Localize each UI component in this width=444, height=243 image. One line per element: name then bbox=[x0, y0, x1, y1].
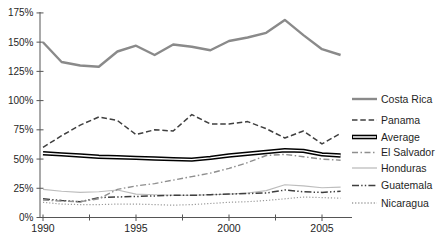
x-tick-label: 2000 bbox=[217, 222, 241, 234]
legend-label-el-salvador: El Salvador bbox=[381, 146, 435, 158]
series-line-nicaragua bbox=[43, 197, 341, 205]
y-tick-label: 75% bbox=[13, 124, 33, 135]
y-tick-label: 175% bbox=[8, 7, 34, 18]
legend-label-honduras: Honduras bbox=[381, 162, 427, 174]
legend-label-panama: Panama bbox=[381, 114, 420, 126]
legend-label-nicaragua: Nicaragua bbox=[381, 197, 429, 209]
y-tick-label: 50% bbox=[13, 154, 33, 165]
y-tick-label: 150% bbox=[8, 37, 34, 48]
y-tick-label: 25% bbox=[13, 183, 33, 194]
line-chart-figure: 0%25%50%75%100%125%150%175%1990199520002… bbox=[0, 0, 444, 243]
y-tick-label: 100% bbox=[8, 95, 34, 106]
y-tick-label: 125% bbox=[8, 66, 34, 77]
series-line-costa-rica bbox=[43, 20, 341, 67]
series-line-honduras bbox=[43, 185, 341, 196]
x-tick-label: 2005 bbox=[310, 222, 334, 234]
series-line-average bbox=[43, 150, 341, 159]
x-tick-label: 1990 bbox=[31, 222, 55, 234]
chart-canvas: 0%25%50%75%100%125%150%175%1990199520002… bbox=[0, 0, 444, 243]
x-tick-label: 1995 bbox=[124, 222, 148, 234]
series-line-panama bbox=[43, 115, 341, 148]
legend-label-costa-rica: Costa Rica bbox=[381, 93, 433, 105]
legend-label-guatemala: Guatemala bbox=[381, 179, 433, 191]
legend-label-average: Average bbox=[381, 131, 420, 143]
